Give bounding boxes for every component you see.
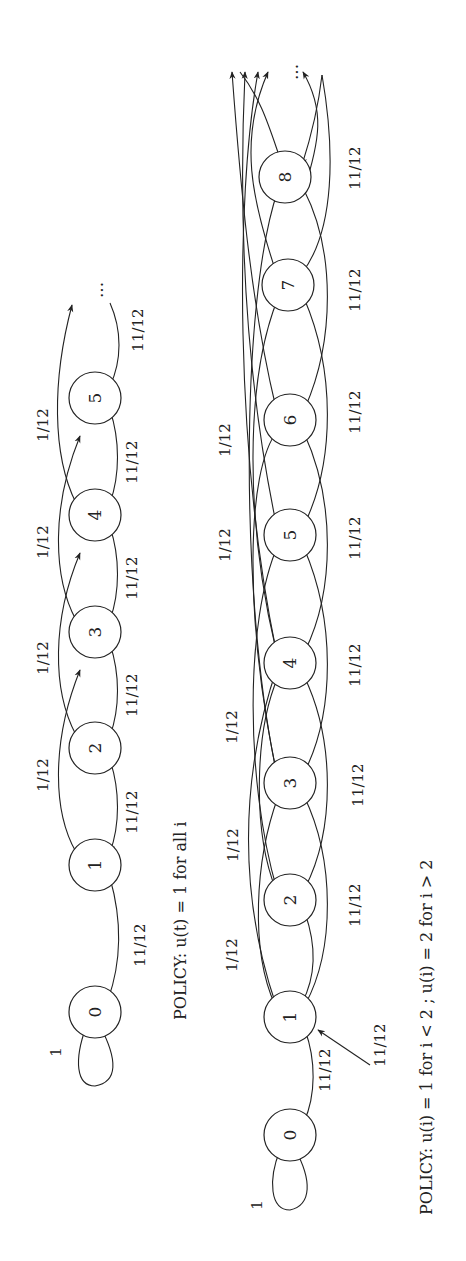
edge-4-to-3 [110, 527, 118, 620]
edge-label-down: 11/12 [346, 516, 364, 559]
edge-label-up: 1/12 [34, 758, 52, 792]
edge-label-up: 1/12 [34, 525, 52, 559]
state-node-0: 0 [264, 1109, 316, 1161]
self-loop-label: 1 [248, 1200, 266, 1210]
edge-label-down: 11/12 [123, 556, 141, 599]
edge-label-down: 11/12 [316, 1048, 334, 1091]
state-node-3: 3 [69, 606, 121, 658]
figure-canvas: 0 1 2 3 4 5 ... 1 11/12 11/12 11/12 11/1… [0, 0, 466, 1261]
edge-3-to-2 [110, 644, 118, 736]
svg-text:7: 7 [278, 280, 298, 291]
svg-text:5: 5 [85, 393, 105, 404]
edge-label-down: 11/12 [346, 883, 364, 926]
bottom-diagram: 0 1 2 3 4 5 6 7 8 ... 1 11/12 11/12 11/1… [216, 64, 436, 1215]
continuation-ellipsis: ... [282, 64, 302, 80]
svg-text:3: 3 [85, 627, 105, 638]
state-node-5: 5 [69, 372, 121, 424]
state-node-1: 1 [264, 991, 316, 1043]
edge-label-down: 11/12 [123, 790, 141, 833]
svg-text:2: 2 [85, 743, 105, 754]
state-node-4: 4 [264, 637, 316, 689]
svg-text:5: 5 [280, 530, 300, 541]
caption-top: POLICY: u(t) = 1 for all i [171, 822, 190, 1020]
state-node-2: 2 [264, 874, 316, 926]
edge-label-up: 1/12 [224, 828, 242, 862]
markov-chain-figure: 0 1 2 3 4 5 ... 1 11/12 11/12 11/12 11/1… [0, 0, 466, 1261]
top-diagram: 0 1 2 3 4 5 ... 1 11/12 11/12 11/12 11/1… [34, 282, 190, 1086]
edge-label-up: 1/12 [34, 408, 52, 442]
svg-text:4: 4 [280, 658, 300, 669]
edge-1-to-0 [304, 1030, 313, 1122]
state-node-5: 5 [264, 509, 316, 561]
edge-label-down: 11/12 [131, 923, 149, 966]
edge-label-down: 11/12 [129, 308, 147, 351]
edge-label-down: 11/12 [371, 1023, 389, 1066]
edge-1-to-0 [108, 878, 119, 1000]
state-node-7: 7 [262, 259, 314, 311]
state-node-8: 8 [259, 151, 311, 203]
edge-label-down: 11/12 [346, 643, 364, 686]
edge-label-down: 11/12 [346, 268, 364, 311]
svg-text:1: 1 [280, 1012, 300, 1023]
state-node-1: 1 [69, 839, 121, 891]
edge-label-down: 11/12 [123, 440, 141, 483]
state-node-3: 3 [264, 757, 316, 809]
edge-inf-to-8 [302, 75, 322, 165]
edge-6-to-inf [232, 72, 276, 408]
state-node-2: 2 [69, 722, 121, 774]
edge-label-down: 11/12 [349, 763, 367, 806]
edge-label-up: 1/12 [223, 938, 241, 972]
svg-text:3: 3 [280, 778, 300, 789]
edge-label-down: 11/12 [123, 673, 141, 716]
edge-8-to-inf-b [240, 72, 282, 164]
continuation-ellipsis: ... [87, 282, 107, 298]
svg-text:4: 4 [85, 510, 105, 521]
svg-text:2: 2 [280, 895, 300, 906]
state-node-4: 4 [69, 489, 121, 541]
edge-2-to-1 [110, 760, 118, 852]
svg-text:0: 0 [280, 1130, 300, 1141]
edge-inf-to-5 [110, 303, 119, 386]
caption-bottom: POLICY: u(i) = 1 for i < 2 ; u(i) = 2 fo… [417, 859, 436, 1215]
edge-2-to-1 [302, 913, 313, 1003]
edge-label-down: 11/12 [346, 146, 364, 189]
svg-text:8: 8 [275, 172, 295, 183]
edge-4-to-7 [253, 298, 278, 650]
svg-text:0: 0 [85, 1007, 105, 1018]
svg-text:1: 1 [85, 860, 105, 871]
edge-label-down: 11/12 [346, 390, 364, 433]
svg-text:6: 6 [280, 415, 300, 426]
edge-label-up: 1/12 [34, 641, 52, 675]
state-node-0: 0 [69, 986, 121, 1038]
edge-label-up: 1/12 [216, 423, 234, 457]
edge-label-up: 1/12 [223, 710, 241, 744]
edge-label-up: 1/12 [216, 528, 234, 562]
state-node-6: 6 [264, 394, 316, 446]
edge-5-to-4 [110, 410, 118, 503]
self-loop-label: 1 [47, 1047, 65, 1057]
